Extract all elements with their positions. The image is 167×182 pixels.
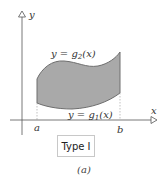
tick-b-label: b [117,124,123,135]
x-axis-arrow-icon [151,117,157,124]
tick-a-label: a [34,122,40,133]
upper-curve-label: y = g2(x) [50,48,96,61]
x-axis-label: x [151,105,157,116]
figure-caption: (a) [72,164,96,175]
y-axis-label: y [28,9,35,20]
type-label-box: Type I [57,135,95,157]
y-axis-arrow-icon [19,11,26,17]
